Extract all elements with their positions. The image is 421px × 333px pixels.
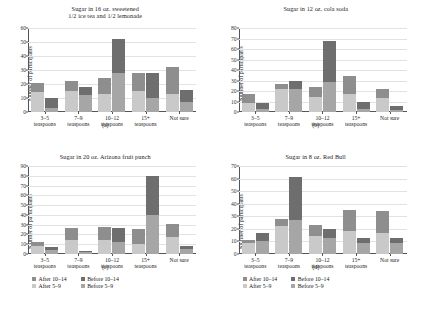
bar-segment xyxy=(98,227,111,241)
x-axis-labels: 3–5 teaspoons7–9 teaspoons10–12 teaspoon… xyxy=(239,257,407,270)
y-tick-label: 50 xyxy=(231,188,237,194)
bar-group xyxy=(339,28,373,112)
bar-series xyxy=(239,166,407,254)
bar-after[interactable] xyxy=(242,240,255,254)
bar-before[interactable] xyxy=(180,90,193,112)
bar-segment xyxy=(45,98,58,108)
bar-segment xyxy=(65,240,78,254)
bar-segment xyxy=(132,244,145,254)
bar-segment xyxy=(112,228,125,243)
legend-label: After 5–9 xyxy=(39,283,61,289)
bar-segment xyxy=(275,219,288,227)
bar-before[interactable] xyxy=(146,176,159,254)
bar-after[interactable] xyxy=(343,210,356,254)
y-tick-label: 90 xyxy=(20,163,26,169)
bar-before[interactable] xyxy=(79,87,92,112)
bar-after[interactable] xyxy=(31,83,44,112)
bar-segment xyxy=(323,229,336,238)
bar-before[interactable] xyxy=(180,246,193,254)
bar-before[interactable] xyxy=(146,73,159,112)
x-tick-label: 3–5 teaspoons xyxy=(28,257,62,270)
x-tick-mark xyxy=(146,254,147,256)
y-tick-label: 30 xyxy=(231,78,237,84)
legend-item-before_10_14[interactable]: Before 10–14 xyxy=(291,276,329,282)
chart-panel-a: Sugar in 16 oz. sweetened 1/2 ice tea an… xyxy=(0,0,211,148)
bar-segment xyxy=(242,94,255,102)
bar-segment xyxy=(180,102,193,112)
bar-segment xyxy=(357,102,370,109)
bar-segment xyxy=(289,81,302,89)
y-tick-label: 20 xyxy=(20,81,26,87)
legend-item-before_10_14[interactable]: Before 10–14 xyxy=(81,276,119,282)
x-tick-mark xyxy=(356,254,357,256)
bar-segment xyxy=(132,229,145,245)
x-axis-labels: 3–5 teaspoons7–9 teaspoons10–12 teaspoon… xyxy=(239,115,407,128)
bar-after[interactable] xyxy=(376,211,389,254)
bar-group xyxy=(95,28,129,112)
bar-after[interactable] xyxy=(275,84,288,112)
bar-before[interactable] xyxy=(289,81,302,112)
x-axis-labels: 3–5 teaspoons7–9 teaspoons10–12 teaspoon… xyxy=(28,115,196,128)
bar-before[interactable] xyxy=(390,106,403,112)
x-tick-mark xyxy=(45,112,46,114)
x-tick-label: Not sure xyxy=(373,257,407,270)
x-tick-label: 10–12 teaspoons xyxy=(95,115,129,128)
bar-after[interactable] xyxy=(65,81,78,112)
bar-before[interactable] xyxy=(79,251,92,254)
bar-after[interactable] xyxy=(343,76,356,112)
bar-segment xyxy=(343,210,356,231)
bar-before[interactable] xyxy=(112,228,125,254)
bar-after[interactable] xyxy=(376,89,389,112)
bar-before[interactable] xyxy=(45,247,58,254)
bar-group xyxy=(272,28,306,112)
bar-after[interactable] xyxy=(98,227,111,254)
x-tick-mark xyxy=(78,112,79,114)
legend-swatch-icon xyxy=(243,284,247,288)
bar-segment xyxy=(180,249,193,254)
y-tick-label: 70 xyxy=(20,183,26,189)
bar-after[interactable] xyxy=(166,67,179,112)
x-tick-mark xyxy=(179,112,180,114)
legend-item-after_5_9[interactable]: After 5–9 xyxy=(32,283,67,289)
y-tick-label: 30 xyxy=(20,222,26,228)
bar-before[interactable] xyxy=(323,229,336,254)
bar-before[interactable] xyxy=(357,238,370,254)
y-tick-label: 0 xyxy=(23,251,26,257)
bar-after[interactable] xyxy=(132,229,145,254)
x-tick-mark xyxy=(179,254,180,256)
bar-before[interactable] xyxy=(357,102,370,112)
x-tick-mark xyxy=(112,254,113,256)
legend-item-after_10_14[interactable]: After 10–14 xyxy=(32,276,67,282)
legend-label: After 10–14 xyxy=(39,276,67,282)
bar-before[interactable] xyxy=(289,177,302,254)
legend-item-before_5_9[interactable]: Before 5–9 xyxy=(81,283,119,289)
y-tick-label: 10 xyxy=(20,241,26,247)
bar-after[interactable] xyxy=(309,225,322,254)
bar-after[interactable] xyxy=(65,228,78,254)
bar-before[interactable] xyxy=(390,238,403,254)
bar-before[interactable] xyxy=(256,103,269,112)
bar-before[interactable] xyxy=(256,233,269,254)
legend-item-after_10_14[interactable]: After 10–14 xyxy=(243,276,278,282)
bar-after[interactable] xyxy=(275,219,288,254)
bar-after[interactable] xyxy=(31,242,44,254)
legend-item-before_5_9[interactable]: Before 5–9 xyxy=(291,283,329,289)
bar-before[interactable] xyxy=(112,39,125,112)
legend-c: After 10–14Before 10–14After 5–9Before 5… xyxy=(32,276,119,289)
bar-segment xyxy=(31,92,44,112)
bar-after[interactable] xyxy=(309,87,322,112)
bar-after[interactable] xyxy=(98,78,111,112)
y-tick-label: 60 xyxy=(231,46,237,52)
bar-after[interactable] xyxy=(132,73,145,112)
bar-segment xyxy=(390,243,403,254)
bar-after[interactable] xyxy=(166,224,179,254)
y-tick-label: 10 xyxy=(231,99,237,105)
bar-after[interactable] xyxy=(242,94,255,112)
y-tick-label: 10 xyxy=(20,95,26,101)
bar-segment xyxy=(289,89,302,112)
legend-label: Before 5–9 xyxy=(298,283,324,289)
x-tick-mark xyxy=(390,112,391,114)
legend-item-after_5_9[interactable]: After 5–9 xyxy=(243,283,278,289)
bar-before[interactable] xyxy=(45,98,58,112)
bar-before[interactable] xyxy=(323,41,336,112)
